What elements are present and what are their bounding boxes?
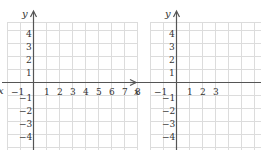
x-tick-label: 3	[213, 88, 219, 97]
x-tick-label: 2	[200, 88, 206, 97]
x-tick-label: 6	[109, 88, 115, 97]
y-tick-label: −2	[162, 107, 175, 116]
y-axis-label: y	[165, 9, 171, 19]
coordinate-grid-left: x y −1 1 2 3 4 5 6 7 8 9 4 3 2 1 −1 −2 −…	[0, 0, 140, 159]
y-tick-label: −4	[162, 133, 175, 142]
x-axis-label: x	[0, 86, 4, 96]
y-tick-label: −3	[162, 120, 175, 129]
x-tick-label: 4	[83, 88, 89, 97]
y-tick-label: −3	[19, 120, 32, 129]
y-tick-label: 1	[26, 69, 32, 78]
x-tick-label: 3	[70, 88, 76, 97]
grid-lines-right	[140, 0, 261, 159]
x-tick-label: 1	[187, 88, 193, 97]
x-tick-label: 7	[122, 88, 128, 97]
y-tick-label: 3	[26, 43, 32, 52]
x-axis-label: x	[134, 87, 140, 97]
y-tick-label: 1	[169, 69, 175, 78]
x-tick-label: 1	[44, 88, 50, 97]
y-tick-label: 2	[26, 56, 32, 65]
y-tick-label: 3	[169, 43, 175, 52]
y-tick-label: −2	[19, 107, 32, 116]
coordinate-grid-right: x y −1 1 2 3 4 3 2 1 −1 −2 −3 −4	[140, 0, 261, 159]
y-tick-label: −1	[162, 94, 175, 103]
x-tick-label: 2	[57, 88, 63, 97]
y-tick-label: 4	[26, 30, 32, 39]
y-tick-label: 4	[169, 30, 175, 39]
y-tick-label: 2	[169, 56, 175, 65]
y-tick-label: −1	[19, 94, 32, 103]
y-axis-label: y	[22, 9, 28, 19]
y-tick-label: −4	[19, 133, 32, 142]
x-tick-label: 5	[96, 88, 102, 97]
